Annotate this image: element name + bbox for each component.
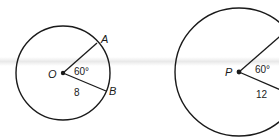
circle-o-figure: O 60° 8 A B [16, 26, 116, 120]
center-label-o: O [48, 68, 57, 80]
point-label-b: B [109, 85, 116, 97]
radius-label-o: 8 [74, 87, 80, 98]
center-point-p [237, 70, 242, 75]
circle-diagrams: O 60° 8 A B P 60° 12 [0, 0, 279, 140]
center-label-p: P [225, 66, 233, 78]
radius-label-p: 12 [256, 89, 268, 100]
point-label-a: A [100, 33, 108, 45]
center-point-o [61, 71, 65, 75]
angle-label-p: 60° [255, 64, 270, 75]
circle-p-figure: P 60° 12 [175, 8, 279, 136]
angle-label-o: 60° [74, 66, 89, 77]
